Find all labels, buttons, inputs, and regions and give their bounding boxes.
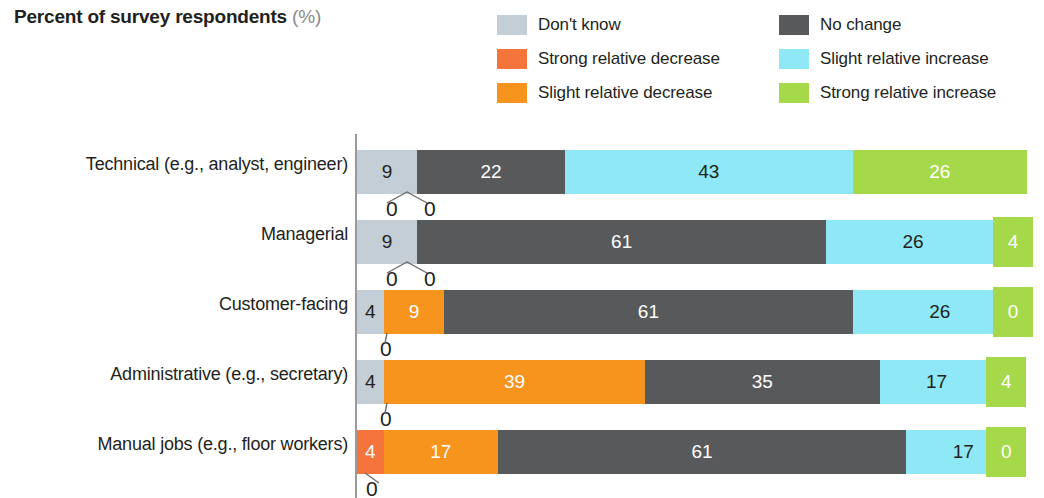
bar-segment-value: 39 [504, 371, 525, 393]
legend-swatch-strong_increase [779, 83, 809, 103]
bar-segment: 39 [384, 360, 645, 404]
stacked-bar: 9224326 [357, 150, 1027, 194]
legend-swatch-no_change [779, 15, 809, 35]
zero-leader-lines [383, 260, 453, 276]
legend-item-slight_decrease: Slight relative decrease [497, 83, 779, 103]
chart-plot-area: Technical (e.g., analyst, engineer)92243… [0, 128, 1044, 498]
zero-leader-line [377, 400, 417, 416]
bar-segment-value: 43 [698, 161, 719, 183]
bar-segment-value: 4 [365, 441, 376, 463]
chart-row: Administrative (e.g., secretary)43935174… [0, 348, 1044, 418]
bar-segment-value: 61 [638, 301, 659, 323]
bar-segment: 35 [645, 360, 880, 404]
legend-label-strong_decrease: Strong relative decrease [538, 49, 720, 69]
bar-segment-value: 26 [903, 231, 924, 253]
legend: Don't knowNo changeStrong relative decre… [497, 8, 1037, 110]
bar-segment: 4 [357, 360, 384, 404]
bar-segment-value: 4 [365, 301, 376, 323]
legend-item-slight_increase: Slight relative increase [779, 49, 1037, 69]
legend-item-dont_know: Don't know [497, 15, 779, 35]
bar-segment: 43 [565, 150, 853, 194]
legend-label-slight_decrease: Slight relative decrease [538, 83, 712, 103]
stacked-bar: 96126 [357, 220, 1027, 264]
bar-segment-value: 17 [953, 441, 974, 463]
bar-segment: 61 [417, 220, 826, 264]
legend-swatch-dont_know [497, 15, 527, 35]
bar-segment-value: 61 [691, 441, 712, 463]
bar-end-value: 0 [1001, 441, 1012, 463]
page-title-text: Percent of survey respondents [14, 6, 287, 27]
stacked-bar: 4393517 [357, 360, 1020, 404]
chart-row: Managerial96126400 [0, 208, 1044, 278]
row-label: Manual jobs (e.g., floor workers) [98, 434, 349, 455]
chart-row: Technical (e.g., analyst, engineer)92243… [0, 138, 1044, 208]
legend-label-slight_increase: Slight relative increase [820, 49, 989, 69]
legend-swatch-slight_increase [779, 49, 809, 69]
bar-segment-value: 9 [382, 161, 393, 183]
bar-segment-value: 35 [752, 371, 773, 393]
bar-end-value: 4 [1001, 371, 1012, 393]
bar-segment: 17 [880, 360, 994, 404]
legend-label-no_change: No change [820, 15, 901, 35]
legend-item-strong_increase: Strong relative increase [779, 83, 1037, 103]
legend-label-dont_know: Don't know [538, 15, 621, 35]
bar-end-value-box: 4 [986, 357, 1026, 407]
row-label: Managerial [261, 224, 348, 245]
row-label: Administrative (e.g., secretary) [110, 364, 348, 385]
bar-segment: 61 [444, 290, 853, 334]
legend-swatch-strong_decrease [497, 49, 527, 69]
row-label: Technical (e.g., analyst, engineer) [86, 154, 348, 175]
bar-segment: 17 [384, 430, 498, 474]
bar-segment: 4 [357, 290, 384, 334]
zero-leader-lines [383, 190, 453, 206]
bar-segment-value: 26 [929, 301, 950, 323]
bar-segment-value: 61 [611, 231, 632, 253]
bar-segment-value: 9 [409, 301, 420, 323]
legend-label-strong_increase: Strong relative increase [820, 83, 996, 103]
zero-leader-line [377, 330, 417, 346]
page-title: Percent of survey respondents (%) [14, 6, 321, 28]
bar-end-value-box: 0 [993, 287, 1033, 337]
chart-row: Customer-facing49612600 [0, 278, 1044, 348]
bar-segment: 9 [384, 290, 444, 334]
legend-item-strong_decrease: Strong relative decrease [497, 49, 779, 69]
bar-segment: 9 [357, 150, 417, 194]
legend-item-no_change: No change [779, 15, 1037, 35]
zero-leader-line [363, 470, 403, 486]
bar-segment-value: 17 [430, 441, 451, 463]
bar-segment: 26 [826, 220, 1000, 264]
bar-segment-value: 17 [926, 371, 947, 393]
bar-end-value-box: 4 [993, 217, 1033, 267]
bar-segment: 61 [498, 430, 907, 474]
bar-segment-value: 9 [382, 231, 393, 253]
bar-end-value: 4 [1008, 231, 1019, 253]
bar-segment: 4 [357, 430, 384, 474]
bar-end-value: 0 [1008, 301, 1019, 323]
legend-swatch-slight_decrease [497, 83, 527, 103]
bar-segment-value: 26 [929, 161, 950, 183]
bar-segment: 9 [357, 220, 417, 264]
chart-row: Manual jobs (e.g., floor workers)4176117… [0, 418, 1044, 488]
bar-segment: 22 [417, 150, 564, 194]
page-title-unit: (%) [292, 6, 321, 27]
bar-segment-value: 4 [365, 371, 376, 393]
row-label: Customer-facing [219, 294, 348, 315]
stacked-bar: 4176117 [357, 430, 1020, 474]
bar-end-value-box: 0 [986, 427, 1026, 477]
bar-segment-value: 22 [480, 161, 501, 183]
stacked-bar: 496126 [357, 290, 1027, 334]
bar-segment: 26 [853, 150, 1027, 194]
